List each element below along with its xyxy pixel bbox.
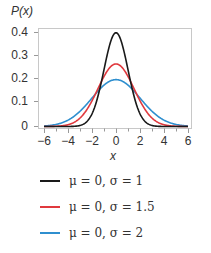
legend-item-sigma-1.5: μ = 0, σ = 1.5 bbox=[40, 200, 155, 214]
legend-swatch-red bbox=[40, 206, 60, 208]
x-axis-ticks bbox=[45, 129, 189, 134]
plot-area bbox=[0, 0, 211, 253]
curve-sigma-2 bbox=[44, 80, 188, 126]
y-axis-ticks bbox=[34, 33, 38, 127]
legend-swatch-black bbox=[40, 180, 60, 182]
x-tick-4: 4 bbox=[154, 134, 174, 148]
legend-label: μ = 0, σ = 1 bbox=[69, 174, 143, 188]
x-tick--2: −2 bbox=[82, 134, 102, 148]
curve-sigma-1.5 bbox=[44, 64, 188, 126]
curves bbox=[44, 33, 188, 127]
x-tick--6: −6 bbox=[34, 134, 54, 148]
x-axis-label: x bbox=[110, 149, 116, 163]
x-tick-6: 6 bbox=[178, 134, 198, 148]
x-tick--4: −4 bbox=[58, 134, 78, 148]
plot-frame bbox=[39, 29, 192, 129]
x-tick-0: 0 bbox=[106, 134, 126, 148]
legend-swatch-blue bbox=[40, 232, 60, 234]
x-tick-2: 2 bbox=[130, 134, 150, 148]
legend-item-sigma-2: μ = 0, σ = 2 bbox=[40, 226, 143, 240]
legend-item-sigma-1: μ = 0, σ = 1 bbox=[40, 174, 143, 188]
legend-label: μ = 0, σ = 2 bbox=[69, 226, 143, 240]
legend-label: μ = 0, σ = 1.5 bbox=[69, 200, 155, 214]
